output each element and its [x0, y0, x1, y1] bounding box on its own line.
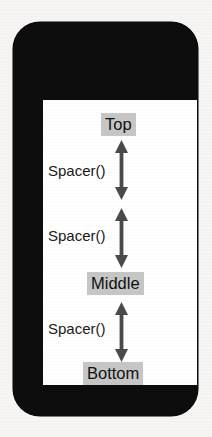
double-arrow-icon-2 — [113, 208, 130, 268]
spacer-annotation-1: Spacer() — [48, 161, 106, 180]
phone-screen: Top Spacer() Spacer() — [43, 100, 197, 385]
double-arrow-icon-3 — [113, 302, 130, 362]
spacer-annotation-3: Spacer() — [48, 319, 106, 338]
view-label-top: Top — [101, 113, 136, 136]
spacer-annotation-2: Spacer() — [48, 226, 106, 245]
view-label-middle: Middle — [87, 272, 144, 295]
figure-canvas: Top Spacer() Spacer() — [0, 0, 212, 437]
view-label-bottom: Bottom — [83, 362, 143, 385]
double-arrow-icon-1 — [113, 140, 130, 200]
phone-device-frame: Top Spacer() Spacer() — [13, 22, 198, 416]
